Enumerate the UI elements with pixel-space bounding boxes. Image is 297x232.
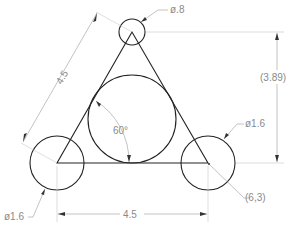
triangle[interactable] [57,32,208,163]
top-circle-leader [141,10,168,22]
height-ref-label: (3.89) [260,72,286,83]
right-circle-leader [224,124,244,139]
left-circle-leader [28,189,45,217]
geometry [30,19,235,190]
cad-drawing-canvas: 4.5 ø.8 (3.89) ø1.6 (6,3) ø1.6 [0,0,297,232]
inscribed-circle[interactable] [88,75,176,163]
left-circle-dia-label: ø1.6 [4,211,24,222]
top-circle-dia-label: ø.8 [170,4,185,15]
slanted-dimension [21,12,132,163]
angle-label: 60° [113,125,128,136]
right-circle-dia-label: ø1.6 [245,118,265,129]
slanted-length-label: 4.5 [54,68,71,86]
coordinate-label: (6,3) [245,192,266,203]
base-length-label: 4.5 [123,209,137,220]
